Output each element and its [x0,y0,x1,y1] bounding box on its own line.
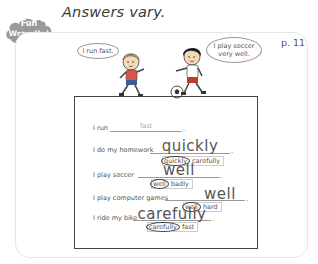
badge-line-fun: Fun [4,19,54,29]
answer-1: fast [110,122,182,130]
answer-5: carefully [133,205,211,223]
prompt-row-4: I play computer games [93,194,168,202]
other-choice-5[interactable]: fast [180,223,197,231]
period-3: . [221,172,223,180]
prompt-row-3: I play soccer [93,171,134,179]
answer-2: quickly [150,137,230,155]
prompt-row-5: I ride my bike [93,214,137,222]
period-1: . [183,125,185,133]
page-number: p. 11 [281,37,305,48]
answer-blank-1 [110,131,182,132]
answer-3: well [138,161,220,179]
circled-choice-5[interactable]: carefully [146,222,180,232]
prompt-row-2: I do my homework [93,146,154,154]
circled-choice-3[interactable]: well [150,179,169,189]
period-4: . [246,195,248,203]
choice-box-5: carefully fast [147,222,198,232]
kids-playing-soccer-illustration [110,40,220,102]
period-2: . [231,147,233,155]
running-girl-icon [119,54,144,97]
answers-vary-heading: Answers vary. [62,4,166,20]
prompt-row-1: I run [93,124,108,132]
period-5: . [212,215,214,223]
